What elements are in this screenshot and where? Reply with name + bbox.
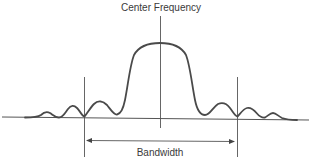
spectrum-curve xyxy=(25,43,297,120)
bandwidth-arrow xyxy=(86,138,235,144)
frequency-spectrum-diagram: Center Frequency Bandwidth xyxy=(0,0,310,162)
spectrum-svg xyxy=(0,0,310,162)
arrowhead-right-icon xyxy=(229,139,235,144)
center-frequency-label: Center Frequency xyxy=(121,2,201,13)
arrowhead-left-icon xyxy=(86,138,92,143)
bandwidth-label: Bandwidth xyxy=(137,147,184,158)
